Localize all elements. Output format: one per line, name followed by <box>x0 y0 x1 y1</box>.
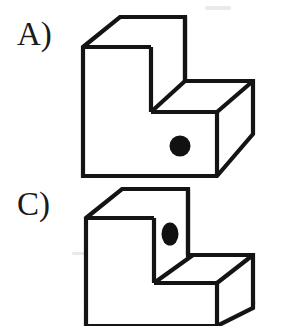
option-label-c: C) <box>17 188 50 221</box>
l-shaped-block-a <box>83 17 253 176</box>
l-shaped-block-c <box>86 189 253 326</box>
block-c-marker-dot <box>162 223 179 246</box>
option-label-a: A) <box>17 18 52 51</box>
block-a-marker-dot <box>170 136 191 157</box>
speck <box>205 6 231 10</box>
mental-rotation-figure-sheet: A) C) <box>0 0 284 326</box>
